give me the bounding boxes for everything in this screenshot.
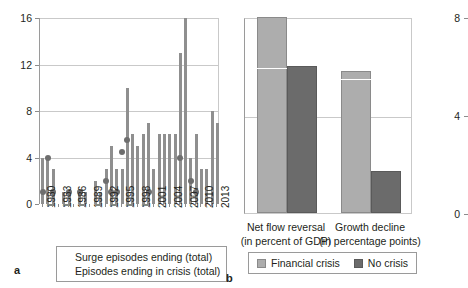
- legend-item-financial-crisis: Financial crisis: [257, 256, 340, 270]
- x-tick-mark: [121, 204, 122, 207]
- x-tick-mark: [163, 204, 164, 207]
- panel-b-chart: 048 Net flow reversal(in percent of GDP)…: [224, 0, 444, 288]
- gridline: [40, 65, 219, 66]
- panel-b-plot-area: [244, 18, 412, 214]
- crisis-dot: [45, 155, 51, 161]
- x-tick-mark: [200, 204, 201, 207]
- bar: [105, 169, 108, 204]
- panel-b-letter: b: [226, 272, 233, 284]
- legend-label-crisis-episodes: Episodes ending in crisis (total): [75, 264, 220, 278]
- dark-swatch-icon: [354, 259, 363, 268]
- panel-b-legend: Financial crisis No crisis: [248, 252, 417, 274]
- legend-item-no-crisis: No crisis: [354, 256, 408, 270]
- x-tick-mark: [206, 204, 207, 207]
- y-tick-mark: [35, 65, 39, 66]
- x-tick-mark: [105, 204, 106, 207]
- bar: [152, 169, 155, 204]
- x-tick-mark: [148, 204, 149, 207]
- circle-marker-icon: [63, 268, 70, 275]
- x-tick-mark: [216, 204, 217, 207]
- gridline: [40, 18, 219, 19]
- legend-row: Financial crisis No crisis: [257, 256, 408, 270]
- gridline: [40, 111, 219, 112]
- y-tick-mark: [464, 18, 468, 19]
- y-axis-label: 4: [442, 111, 460, 122]
- grouped-bar: [341, 71, 371, 213]
- crisis-dot: [103, 178, 109, 184]
- x-tick-mark: [116, 204, 117, 207]
- bar: [216, 123, 219, 204]
- x-tick-mark: [137, 204, 138, 207]
- x-tick-mark: [158, 204, 159, 207]
- grouped-bar: [371, 171, 401, 213]
- y-axis-label: 0: [8, 199, 32, 210]
- x-tick-mark: [89, 204, 90, 207]
- square-marker-icon: [63, 254, 70, 261]
- y-axis-label: 0: [442, 209, 460, 220]
- legend-item-crisis-episodes: Episodes ending in crisis (total): [63, 264, 220, 278]
- crisis-dot: [177, 155, 183, 161]
- crisis-dot: [40, 189, 46, 195]
- grouped-bar: [287, 66, 317, 213]
- x-tick-mark: [211, 204, 212, 207]
- x-tick-mark: [153, 204, 154, 207]
- light-swatch-icon: [257, 259, 266, 268]
- x-tick-mark: [84, 204, 85, 207]
- x-tick-mark: [52, 204, 53, 207]
- bar: [184, 18, 187, 204]
- x-tick-mark: [42, 204, 43, 207]
- panel-a-chart: 0481216 19801983198619891992199519982001…: [0, 0, 224, 288]
- category-label: Growth decline(in percentage points): [310, 220, 430, 248]
- panel-a-plot-area: [39, 18, 219, 204]
- x-tick-mark: [63, 204, 64, 207]
- x-tick-mark: [100, 204, 101, 207]
- x-tick-mark: [110, 204, 111, 207]
- x-tick-mark: [174, 204, 175, 207]
- y-tick-mark: [464, 214, 468, 215]
- x-tick-mark: [47, 204, 48, 207]
- y-tick-mark: [35, 158, 39, 159]
- y-tick-mark: [35, 204, 39, 205]
- bar: [168, 134, 171, 204]
- y-axis-label: 16: [8, 13, 32, 24]
- x-tick-mark: [68, 204, 69, 207]
- legend-item-surge-episodes: Surge episodes ending (total): [63, 250, 220, 264]
- x-tick-mark: [79, 204, 80, 207]
- bar: [179, 53, 182, 204]
- legend-label-surge-episodes: Surge episodes ending (total): [75, 250, 212, 264]
- x-tick-mark: [179, 204, 180, 207]
- y-axis-label: 8: [442, 13, 460, 24]
- category-label-line2: (in percentage points): [310, 234, 430, 248]
- panel-a-legend: Surge episodes ending (total) Episodes e…: [56, 246, 227, 282]
- x-tick-mark: [73, 204, 74, 207]
- crisis-dot: [124, 137, 130, 143]
- y-axis-label: 12: [8, 60, 32, 71]
- legend-label-financial-crisis: Financial crisis: [271, 256, 340, 270]
- legend-label-no-crisis: No crisis: [368, 256, 408, 270]
- bar: [121, 169, 124, 204]
- y-tick-mark: [35, 111, 39, 112]
- x-tick-mark: [169, 204, 170, 207]
- white-gridline-overlay: [257, 68, 287, 69]
- y-axis-label: 4: [8, 153, 32, 164]
- x-tick-mark: [190, 204, 191, 207]
- grouped-bar: [257, 17, 287, 213]
- x-tick-mark: [195, 204, 196, 207]
- x-tick-mark: [126, 204, 127, 207]
- x-tick-mark: [132, 204, 133, 207]
- crisis-dot: [119, 149, 125, 155]
- white-gridline-overlay: [341, 79, 371, 80]
- x-tick-mark: [142, 204, 143, 207]
- category-label-line1: Growth decline: [310, 220, 430, 234]
- y-tick-mark: [464, 116, 468, 117]
- bar: [136, 146, 139, 204]
- y-tick-mark: [35, 18, 39, 19]
- y-axis-label: 8: [8, 106, 32, 117]
- crisis-dot: [188, 178, 194, 184]
- x-tick-mark: [58, 204, 59, 207]
- panel-a-letter: a: [14, 264, 20, 276]
- bar: [200, 169, 203, 204]
- x-tick-mark: [185, 204, 186, 207]
- bar: [41, 158, 44, 205]
- x-tick-mark: [95, 204, 96, 207]
